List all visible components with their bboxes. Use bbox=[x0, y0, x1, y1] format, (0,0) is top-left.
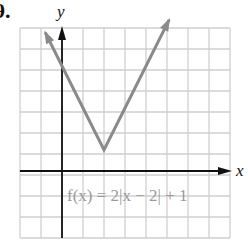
coordinate-plane: x y f(x) = 2|x − 2| + 1 bbox=[0, 0, 248, 248]
problem-number: 9. bbox=[0, 0, 11, 24]
curve-left-arrow-icon bbox=[44, 31, 54, 45]
graph-figure: 9. x y f(x) = 2|x − 2| + 1 bbox=[0, 0, 248, 248]
function-label: f(x) = 2|x − 2| + 1 bbox=[67, 186, 188, 205]
x-axis-label: x bbox=[235, 161, 244, 180]
curve-right-arrow-icon bbox=[160, 18, 170, 32]
grid-lines bbox=[20, 28, 230, 238]
y-axis-label: y bbox=[55, 2, 65, 21]
